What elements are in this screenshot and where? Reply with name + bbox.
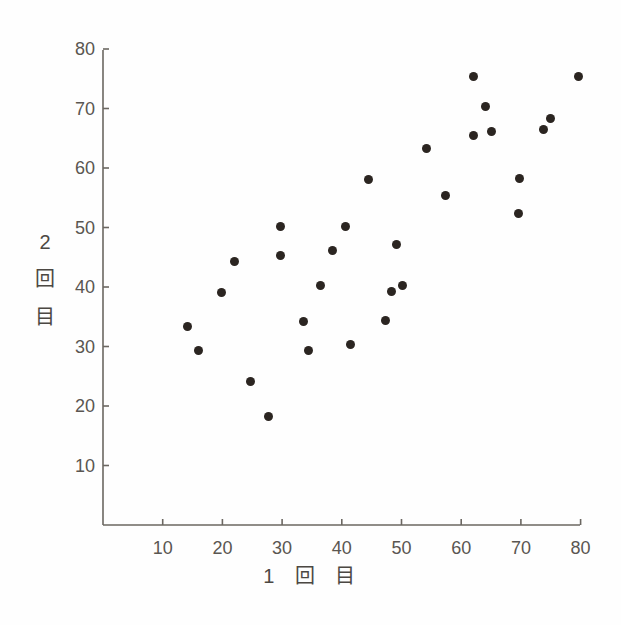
data-point xyxy=(276,222,285,231)
y-axis-tick-label: 10 xyxy=(47,457,95,475)
scatter-chart: 1020304050607080 1020304050607080 2回目 1回… xyxy=(0,0,621,625)
data-point xyxy=(194,346,203,355)
y-axis-tick-label: 30 xyxy=(47,338,95,356)
data-point xyxy=(217,288,226,297)
x-axis-tick-label: 40 xyxy=(332,539,352,557)
data-point xyxy=(487,127,496,136)
x-axis-tick-label: 60 xyxy=(451,539,471,557)
x-axis-title-segment: 目 xyxy=(335,560,357,589)
x-axis-title-segment: 回 xyxy=(295,560,317,589)
data-point xyxy=(546,114,555,123)
x-axis-tick-label: 30 xyxy=(272,539,292,557)
x-axis-title-segment: 1 xyxy=(263,565,277,588)
y-axis-tick-label: 80 xyxy=(47,40,95,58)
data-point xyxy=(264,412,273,421)
y-axis-title-segment: 2 xyxy=(26,231,64,254)
data-point xyxy=(346,340,355,349)
data-point xyxy=(364,175,373,184)
data-point xyxy=(469,72,478,81)
data-point xyxy=(398,281,407,290)
data-point xyxy=(246,377,255,386)
data-point xyxy=(230,257,239,266)
y-axis-tick-label: 70 xyxy=(47,100,95,118)
y-axis-tick-label: 20 xyxy=(47,397,95,415)
data-point xyxy=(183,322,192,331)
y-axis-title-segment: 回 xyxy=(26,263,64,292)
data-point xyxy=(299,317,308,326)
plot-area: 1020304050607080 1020304050607080 xyxy=(0,0,621,625)
x-axis-title: 1回目 xyxy=(0,560,621,589)
data-point xyxy=(304,346,313,355)
y-axis-title-segment: 目 xyxy=(26,301,64,330)
y-axis-title: 2回目 xyxy=(26,222,64,339)
axis-lines xyxy=(103,50,580,525)
data-point xyxy=(392,240,401,249)
data-point xyxy=(469,131,478,140)
y-axis-tick-label: 60 xyxy=(47,159,95,177)
axes-svg xyxy=(0,0,621,625)
data-point xyxy=(422,144,431,153)
axis-ticks xyxy=(103,49,581,525)
data-point xyxy=(515,174,524,183)
x-axis-tick-label: 70 xyxy=(511,539,531,557)
x-axis-tick-label: 10 xyxy=(153,539,173,557)
x-axis-tick-label: 80 xyxy=(571,539,591,557)
data-point xyxy=(481,102,490,111)
data-point xyxy=(328,246,337,255)
x-axis-tick-label: 50 xyxy=(391,539,411,557)
x-axis-tick-label: 20 xyxy=(212,539,232,557)
